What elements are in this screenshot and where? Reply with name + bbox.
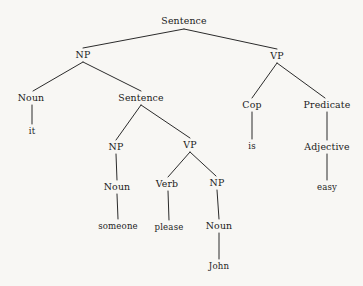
tree-node-verb: Verb	[156, 179, 179, 188]
tree-edge-noun-2-to-someone	[117, 194, 118, 219]
tree-edge-vp-2-to-np-3	[190, 152, 216, 176]
tree-edge-s-root-to-np-1	[83, 29, 184, 48]
tree-edge-verb-to-please	[168, 191, 169, 220]
tree-node-noun-3: Noun	[206, 221, 233, 230]
tree-edge-s-embedded-to-np-2	[116, 105, 141, 140]
tree-node-s-embedded: Sentence	[118, 93, 163, 102]
tree-node-noun-1: Noun	[18, 93, 45, 102]
tree-node-np-3: NP	[210, 178, 225, 187]
tree-edge-s-embedded-to-vp-2	[141, 105, 190, 138]
tree-node-john: John	[209, 262, 229, 271]
tree-node-np-1: NP	[76, 50, 91, 59]
tree-node-predicate: Predicate	[304, 100, 351, 109]
tree-edge-vp-2-to-verb	[168, 152, 190, 177]
tree-edge-np-2-to-noun-2	[116, 154, 117, 180]
tree-edge-np-1-to-noun-1	[33, 62, 83, 91]
tree-node-vp-1: VP	[270, 51, 283, 60]
tree-edge-vp-1-to-cop	[252, 63, 277, 98]
tree-node-vp-2: VP	[183, 140, 196, 149]
tree-node-cop: Cop	[242, 100, 261, 109]
tree-edge-s-root-to-vp-1	[184, 29, 277, 49]
tree-edge-np-3-to-noun-3	[217, 190, 219, 219]
tree-node-please: please	[155, 223, 184, 232]
tree-node-it: it	[29, 127, 36, 136]
tree-edge-vp-1-to-predicate	[277, 63, 325, 98]
tree-node-easy: easy	[317, 183, 337, 192]
tree-node-s-root: Sentence	[161, 16, 206, 25]
tree-node-noun-2: Noun	[104, 182, 131, 191]
syntax-tree-diagram: SentenceNPVPNounSentenceCopPredicateitNP…	[0, 0, 363, 286]
tree-node-is: is	[248, 142, 255, 151]
tree-node-someone: someone	[98, 222, 138, 231]
tree-edge-np-1-to-s-embedded	[83, 62, 141, 91]
tree-node-adjective: Adjective	[304, 142, 349, 151]
tree-node-np-2: NP	[109, 142, 124, 151]
